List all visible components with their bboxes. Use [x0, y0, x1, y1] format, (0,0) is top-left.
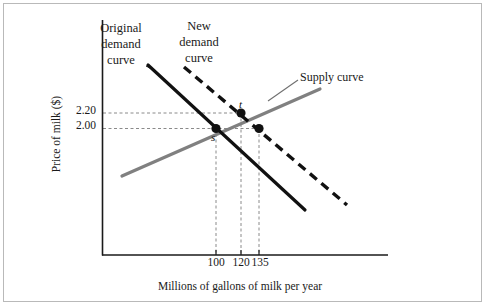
point-label-s: s	[211, 131, 215, 143]
supply-demand-figure: Original demand curve New demand curve S…	[0, 0, 487, 307]
new-demand-curve-line	[184, 67, 347, 205]
x-tick-label-100: 100	[203, 256, 229, 268]
annotation-original-demand-line1: Original	[89, 20, 153, 36]
y-tick-label-200: 2.00	[56, 119, 96, 131]
y-axis-title: Price of milk ($)	[50, 74, 62, 194]
x-axis-title: Millions of gallons of milk per year	[110, 280, 370, 292]
original-demand-curve-line	[148, 65, 305, 210]
annotation-new-demand-line2: demand	[168, 34, 230, 50]
point-label-t: t	[239, 98, 242, 110]
y-tick-label-220: 2.20	[56, 104, 96, 116]
leader-line-supply	[268, 80, 298, 101]
annotation-new-demand-line1: New	[168, 18, 230, 34]
annotation-supply-curve: Supply curve	[300, 70, 364, 85]
annotation-new-demand-line3: curve	[168, 50, 230, 66]
x-tick-label-135: 135	[247, 256, 273, 268]
annotation-original-demand-line2: demand	[89, 36, 153, 52]
point-q135-marker	[254, 124, 263, 133]
annotation-original-demand-line3: curve	[89, 52, 153, 68]
annotation-original-demand-curve: Original demand curve	[89, 20, 153, 68]
annotation-new-demand-curve: New demand curve	[168, 18, 230, 66]
